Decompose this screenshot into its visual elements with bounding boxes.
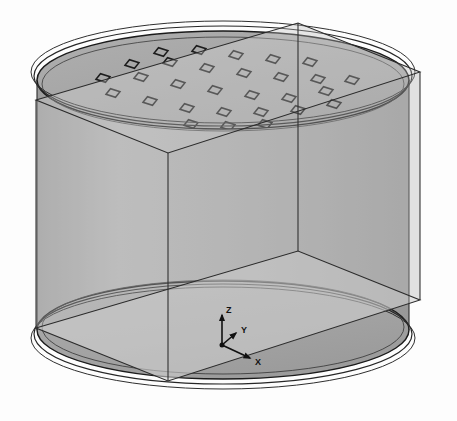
axis-origin-dot <box>220 343 225 348</box>
figure-viewport: ZXY <box>0 0 457 421</box>
axis-label-z: Z <box>226 305 232 315</box>
axis-label-x: X <box>255 357 261 367</box>
3d-scene: ZXY <box>0 0 457 421</box>
axis-label-y: Y <box>241 325 247 335</box>
